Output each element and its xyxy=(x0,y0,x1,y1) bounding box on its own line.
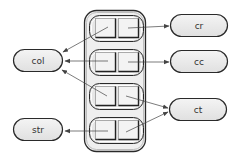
node-col-label: col xyxy=(32,56,45,66)
node-str[interactable]: str xyxy=(14,119,63,141)
row-3-cell-2 xyxy=(119,87,139,106)
row-2-cell-1 xyxy=(96,53,116,72)
row-3-cell-1 xyxy=(96,87,116,106)
node-col[interactable]: col xyxy=(14,50,63,72)
row-4-cell-1 xyxy=(96,121,116,140)
node-cc-label: cc xyxy=(194,57,204,67)
diagram-canvas: col cr cc ct str xyxy=(0,0,234,165)
node-cc[interactable]: cc xyxy=(171,51,228,73)
container-row-3 xyxy=(90,84,144,110)
node-cr[interactable]: cr xyxy=(171,15,228,37)
container-row-2 xyxy=(90,50,144,76)
node-str-label: str xyxy=(32,125,44,135)
row-4-cell-2 xyxy=(119,121,139,140)
container-row-1 xyxy=(90,16,144,42)
node-cr-label: cr xyxy=(195,21,204,31)
node-ct-label: ct xyxy=(194,105,203,115)
node-ct[interactable]: ct xyxy=(170,99,227,121)
container-row-4 xyxy=(90,118,144,144)
